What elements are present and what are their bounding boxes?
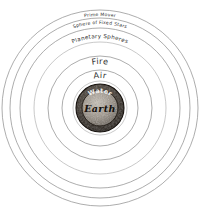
cosmology-diagram: Prime Mover Sphere of Fixed Stars Planet… bbox=[0, 0, 200, 222]
label-planetary-spheres: Planetary Spheres bbox=[71, 33, 129, 45]
label-prime-mover: Prime Mover bbox=[84, 12, 117, 18]
label-earth: Earth bbox=[83, 103, 116, 114]
label-air: Air bbox=[93, 70, 108, 81]
label-fire: Fire bbox=[91, 56, 109, 67]
cosmos-svg: Prime Mover Sphere of Fixed Stars Planet… bbox=[0, 0, 200, 222]
